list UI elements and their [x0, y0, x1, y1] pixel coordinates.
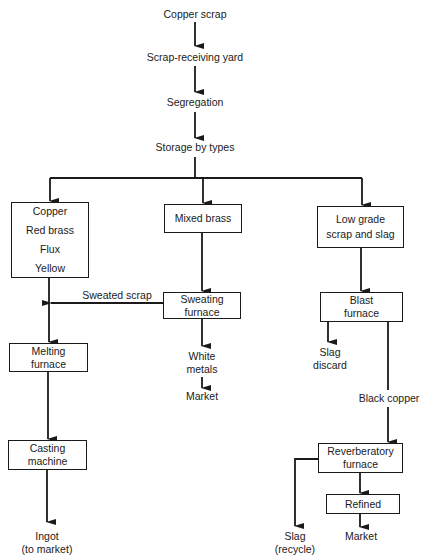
box-copper-red-brass-flux-yellow: Copper Red brass Flux Yellow	[11, 202, 89, 278]
sweating-line-2: furnace	[184, 306, 219, 319]
step-scrap-receiving-yard: Scrap-receiving yard	[147, 51, 243, 64]
output-white-metals: White metals	[187, 350, 218, 376]
source-item-red-brass: Red brass	[26, 221, 74, 240]
reverberatory-line-1: Reverberatory	[327, 445, 394, 458]
box-mixed-brass: Mixed brass	[164, 204, 242, 233]
casting-line-1: Casting	[30, 442, 66, 455]
melting-line-1: Melting	[32, 345, 66, 358]
slag-discard-line-1: Slag	[313, 346, 347, 359]
box-sweating-furnace: Sweating furnace	[163, 292, 241, 319]
step-storage-by-types: Storage by types	[156, 141, 235, 154]
output-market-middle: Market	[186, 390, 218, 403]
slag-recycle-line-2: (recycle)	[275, 543, 315, 556]
melting-line-2: furnace	[31, 358, 66, 371]
step-segregation: Segregation	[167, 96, 224, 109]
blast-line-1: Blast	[350, 294, 373, 307]
slag-discard-line-2: discard	[313, 359, 347, 372]
sweating-line-1: Sweating	[180, 293, 223, 306]
output-slag-discard: Slag discard	[313, 346, 347, 372]
box-blast-furnace: Blast furnace	[320, 292, 403, 322]
ingot-line-1: Ingot	[22, 530, 73, 543]
output-ingot: Ingot (to market)	[22, 530, 73, 556]
box-refined: Refined	[326, 494, 400, 514]
connector-lines	[0, 0, 430, 560]
source-item-copper: Copper	[33, 202, 67, 221]
low-grade-line-1: Low grade	[336, 212, 385, 227]
casting-line-2: machine	[28, 455, 68, 468]
ingot-line-2: (to market)	[22, 543, 73, 556]
label-black-copper: Black copper	[359, 392, 420, 405]
box-casting-machine: Casting machine	[8, 440, 87, 470]
refined-label: Refined	[345, 498, 381, 511]
output-slag-recycle: Slag (recycle)	[275, 530, 315, 556]
blast-line-2: furnace	[344, 307, 379, 320]
low-grade-line-2: scrap and slag	[326, 227, 394, 242]
copper-scrap-flowchart: Copper scrap Scrap-receiving yard Segreg…	[0, 0, 430, 560]
box-melting-furnace: Melting furnace	[9, 343, 88, 372]
source-item-flux: Flux	[40, 240, 60, 259]
reverberatory-line-2: furnace	[343, 458, 378, 471]
box-reverberatory-furnace: Reverberatory furnace	[318, 443, 403, 473]
step-copper-scrap: Copper scrap	[163, 8, 226, 21]
output-market-right: Market	[345, 530, 377, 543]
label-sweated-scrap: Sweated scrap	[82, 289, 151, 302]
source-item-yellow: Yellow	[35, 259, 65, 278]
slag-recycle-line-1: Slag	[275, 530, 315, 543]
white-metals-line-1: White	[187, 350, 218, 363]
white-metals-line-2: metals	[187, 363, 218, 376]
box-low-grade-scrap-and-slag: Low grade scrap and slag	[317, 206, 404, 248]
mixed-brass-label: Mixed brass	[175, 212, 232, 225]
